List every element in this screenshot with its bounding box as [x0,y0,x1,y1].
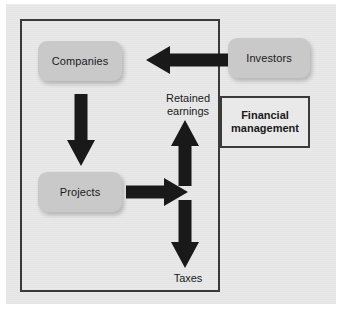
node-investors-label: Investors [246,52,292,64]
financial-management-line1: Financial [241,109,289,121]
node-companies-label: Companies [52,55,109,67]
label-retained-earnings: Retained earnings [150,92,226,118]
arrow-companies-to-projects [66,94,96,166]
node-financial-management[interactable]: Financial management [220,96,310,148]
node-projects-label: Projects [60,186,101,198]
node-projects[interactable]: Projects [38,172,122,212]
node-financial-management-label: Financial management [231,109,299,136]
retained-earnings-line1: Retained [166,92,210,104]
label-taxes: Taxes [152,272,224,285]
financial-management-line2: management [231,122,299,134]
arrow-cash-hub-to-taxes [170,200,200,268]
retained-earnings-line2: earnings [167,105,209,117]
node-investors[interactable]: Investors [228,38,310,78]
node-companies[interactable]: Companies [38,41,122,81]
diagram-canvas: Companies Projects Investors Financial m… [0,0,342,313]
arrow-investors-to-companies [146,45,238,75]
arrow-cash-hub-to-retained-earnings [170,120,200,186]
